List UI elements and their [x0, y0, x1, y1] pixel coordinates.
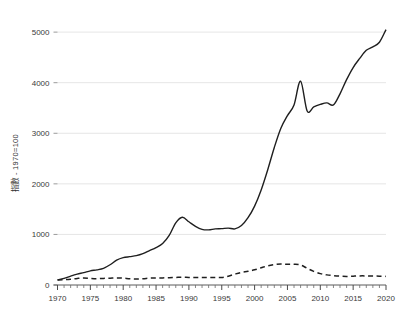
series-line-solid-series	[58, 30, 387, 280]
y-tick-label: 3000	[32, 129, 50, 138]
x-major-ticks-group	[58, 285, 387, 290]
x-tick-label: 1990	[180, 294, 198, 303]
x-tick-label: 2005	[279, 294, 297, 303]
x-tick-label: 1995	[213, 294, 231, 303]
x-tick-label: 2015	[344, 294, 362, 303]
y-tick-label: 4000	[32, 79, 50, 88]
x-tick-label: 1980	[114, 294, 132, 303]
chart-container: 指數 - 1970=100 010002000300040005000 1970…	[0, 0, 398, 320]
x-tick-label: 1985	[147, 294, 165, 303]
data-series-group	[58, 30, 387, 280]
x-tick-label: 2000	[246, 294, 264, 303]
line-chart-plot: 010002000300040005000 197019751980198519…	[0, 0, 398, 320]
y-tick-label: 1000	[32, 230, 50, 239]
x-tick-label: 2020	[377, 294, 395, 303]
x-tick-labels-group: 1970197519801985199019952000200520102015…	[49, 294, 396, 303]
y-tick-label: 0	[45, 281, 50, 290]
x-tick-label: 1970	[49, 294, 67, 303]
x-tick-label: 1975	[81, 294, 99, 303]
gridlines-group	[58, 32, 387, 234]
y-tick-label: 5000	[32, 28, 50, 37]
x-tick-label: 2010	[311, 294, 329, 303]
y-tick-labels-group: 010002000300040005000	[32, 28, 50, 290]
y-tick-label: 2000	[32, 180, 50, 189]
y-tick-marks-group	[54, 32, 58, 285]
